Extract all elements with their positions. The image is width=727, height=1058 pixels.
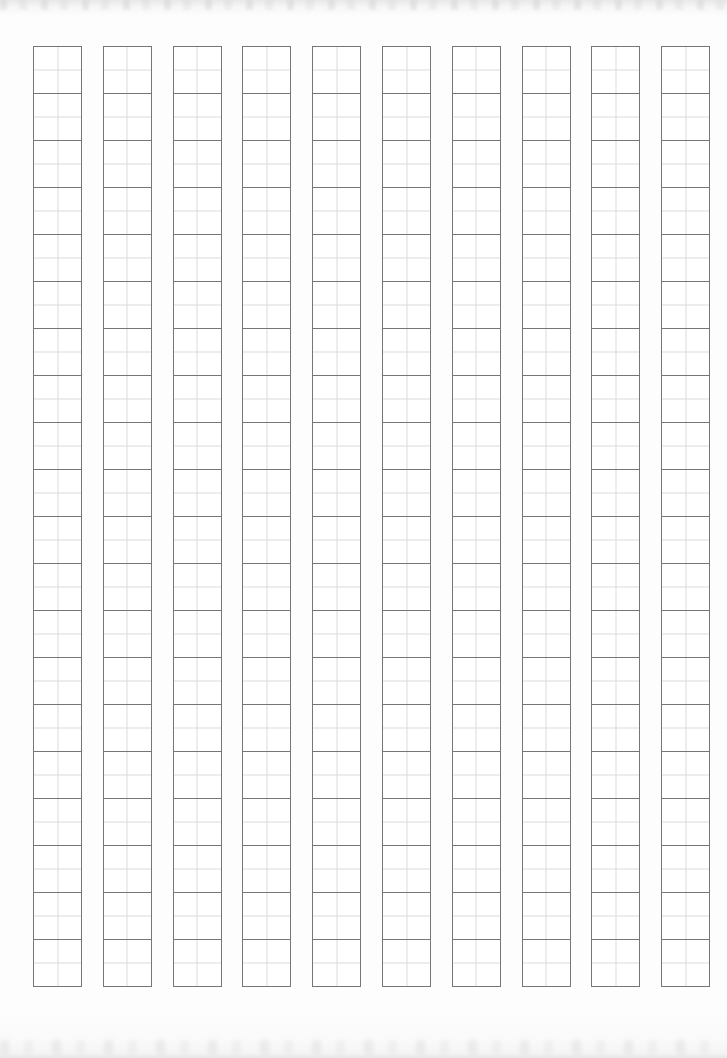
practice-cell[interactable]: [33, 516, 82, 564]
practice-cell[interactable]: [591, 140, 640, 188]
practice-cell[interactable]: [103, 140, 152, 188]
practice-cell[interactable]: [661, 93, 710, 141]
practice-cell[interactable]: [382, 93, 431, 141]
practice-cell[interactable]: [382, 610, 431, 658]
practice-cell[interactable]: [103, 328, 152, 376]
practice-cell[interactable]: [103, 46, 152, 94]
practice-cell[interactable]: [33, 657, 82, 705]
practice-cell[interactable]: [522, 939, 571, 987]
practice-cell[interactable]: [103, 845, 152, 893]
practice-cell[interactable]: [173, 798, 222, 846]
practice-cell[interactable]: [382, 234, 431, 282]
practice-cell[interactable]: [522, 422, 571, 470]
practice-cell[interactable]: [591, 516, 640, 564]
practice-cell[interactable]: [33, 375, 82, 423]
practice-cell[interactable]: [242, 375, 291, 423]
practice-cell[interactable]: [522, 281, 571, 329]
practice-cell[interactable]: [312, 375, 361, 423]
practice-cell[interactable]: [312, 281, 361, 329]
practice-cell[interactable]: [661, 140, 710, 188]
practice-cell[interactable]: [33, 751, 82, 799]
practice-cell[interactable]: [312, 140, 361, 188]
practice-cell[interactable]: [242, 657, 291, 705]
practice-cell[interactable]: [382, 892, 431, 940]
practice-cell[interactable]: [33, 140, 82, 188]
practice-cell[interactable]: [522, 516, 571, 564]
practice-cell[interactable]: [173, 892, 222, 940]
practice-cell[interactable]: [522, 751, 571, 799]
practice-cell[interactable]: [661, 892, 710, 940]
practice-cell[interactable]: [242, 46, 291, 94]
practice-cell[interactable]: [522, 610, 571, 658]
practice-cell[interactable]: [312, 892, 361, 940]
practice-cell[interactable]: [522, 187, 571, 235]
practice-cell[interactable]: [661, 657, 710, 705]
practice-cell[interactable]: [452, 845, 501, 893]
practice-cell[interactable]: [173, 704, 222, 752]
practice-cell[interactable]: [382, 798, 431, 846]
practice-cell[interactable]: [452, 187, 501, 235]
practice-cell[interactable]: [103, 516, 152, 564]
practice-cell[interactable]: [522, 375, 571, 423]
practice-cell[interactable]: [452, 375, 501, 423]
practice-cell[interactable]: [103, 422, 152, 470]
practice-cell[interactable]: [522, 469, 571, 517]
practice-cell[interactable]: [173, 516, 222, 564]
practice-cell[interactable]: [33, 187, 82, 235]
practice-cell[interactable]: [173, 187, 222, 235]
practice-cell[interactable]: [522, 328, 571, 376]
practice-cell[interactable]: [312, 46, 361, 94]
practice-cell[interactable]: [591, 281, 640, 329]
practice-cell[interactable]: [312, 798, 361, 846]
practice-cell[interactable]: [522, 234, 571, 282]
practice-cell[interactable]: [452, 516, 501, 564]
practice-cell[interactable]: [242, 140, 291, 188]
practice-cell[interactable]: [382, 281, 431, 329]
practice-cell[interactable]: [312, 610, 361, 658]
practice-cell[interactable]: [103, 751, 152, 799]
practice-cell[interactable]: [312, 234, 361, 282]
practice-cell[interactable]: [591, 939, 640, 987]
practice-cell[interactable]: [242, 93, 291, 141]
practice-cell[interactable]: [312, 93, 361, 141]
practice-cell[interactable]: [452, 46, 501, 94]
practice-cell[interactable]: [242, 187, 291, 235]
practice-cell[interactable]: [591, 469, 640, 517]
practice-cell[interactable]: [382, 140, 431, 188]
practice-cell[interactable]: [522, 93, 571, 141]
practice-cell[interactable]: [312, 563, 361, 611]
practice-cell[interactable]: [452, 234, 501, 282]
practice-cell[interactable]: [522, 46, 571, 94]
practice-cell[interactable]: [33, 610, 82, 658]
practice-cell[interactable]: [33, 704, 82, 752]
practice-cell[interactable]: [452, 798, 501, 846]
practice-cell[interactable]: [173, 234, 222, 282]
practice-cell[interactable]: [522, 563, 571, 611]
practice-cell[interactable]: [312, 704, 361, 752]
practice-cell[interactable]: [591, 46, 640, 94]
practice-cell[interactable]: [242, 234, 291, 282]
practice-cell[interactable]: [591, 234, 640, 282]
practice-cell[interactable]: [173, 93, 222, 141]
practice-cell[interactable]: [103, 234, 152, 282]
practice-cell[interactable]: [33, 892, 82, 940]
practice-cell[interactable]: [312, 845, 361, 893]
practice-cell[interactable]: [33, 328, 82, 376]
practice-cell[interactable]: [661, 375, 710, 423]
practice-cell[interactable]: [661, 798, 710, 846]
practice-cell[interactable]: [522, 845, 571, 893]
practice-cell[interactable]: [173, 328, 222, 376]
practice-cell[interactable]: [242, 798, 291, 846]
practice-cell[interactable]: [242, 516, 291, 564]
practice-cell[interactable]: [382, 46, 431, 94]
practice-cell[interactable]: [312, 939, 361, 987]
practice-cell[interactable]: [522, 140, 571, 188]
practice-cell[interactable]: [173, 281, 222, 329]
practice-cell[interactable]: [661, 516, 710, 564]
practice-cell[interactable]: [242, 845, 291, 893]
practice-cell[interactable]: [382, 657, 431, 705]
practice-cell[interactable]: [452, 281, 501, 329]
practice-cell[interactable]: [103, 892, 152, 940]
practice-cell[interactable]: [312, 469, 361, 517]
practice-cell[interactable]: [33, 234, 82, 282]
